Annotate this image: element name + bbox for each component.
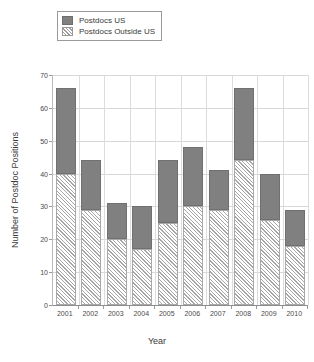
x-tick-label: 2009: [256, 310, 282, 317]
legend-item-postdocs-us: Postdocs US: [62, 15, 155, 26]
y-tick-label: 40: [40, 171, 48, 178]
y-tick-label: 10: [40, 269, 48, 276]
bar-segment-outside-us: [158, 223, 178, 305]
x-tick-label: 2006: [180, 310, 206, 317]
x-tick-label: 2005: [154, 310, 180, 317]
x-tick-mark: [205, 306, 206, 309]
x-tick-label: 2002: [78, 310, 104, 317]
bar-segment-us: [81, 160, 101, 209]
bar-segment-us: [260, 174, 280, 220]
stacked-bar-2007: [209, 75, 229, 305]
x-tick-label: 2004: [129, 310, 155, 317]
bar-segment-us: [183, 147, 203, 206]
bar-segment-outside-us: [234, 160, 254, 305]
bar-segment-us: [56, 88, 76, 173]
x-tick-mark: [78, 306, 79, 309]
bar-segment-outside-us: [81, 210, 101, 305]
x-tick-label: 2001: [52, 310, 78, 317]
stacked-bar-2010: [285, 75, 305, 305]
bar-segment-outside-us: [285, 246, 305, 305]
x-tick-mark: [154, 306, 155, 309]
x-tick-mark: [180, 306, 181, 309]
x-tick-mark: [231, 306, 232, 309]
bar-segment-us: [285, 210, 305, 246]
legend-label-postdocs-us: Postdocs US: [79, 16, 125, 26]
y-tick-label: 20: [40, 236, 48, 243]
x-tick-mark: [129, 306, 130, 309]
stacked-bar-2006: [183, 75, 203, 305]
hatched-swatch-icon: [62, 27, 73, 36]
vertical-gridline: [79, 75, 80, 305]
vertical-gridline: [232, 75, 233, 305]
vertical-gridline: [104, 75, 105, 305]
vertical-gridline: [257, 75, 258, 305]
stacked-bar-2002: [81, 75, 101, 305]
legend-label-postdocs-outside-us: Postdocs Outside US: [79, 27, 155, 37]
stacked-bar-2003: [107, 75, 127, 305]
x-tick-label: 2008: [231, 310, 257, 317]
x-tick-mark: [256, 306, 257, 309]
y-tick-label: 30: [40, 203, 48, 210]
y-tick-label: 70: [40, 72, 48, 79]
stacked-bar-2008: [234, 75, 254, 305]
chart-legend: Postdocs US Postdocs Outside US: [57, 11, 162, 41]
bar-segment-us: [209, 170, 229, 209]
y-axis-title: Number of Postdoc Positions: [10, 75, 20, 305]
x-tick-label: 2007: [205, 310, 231, 317]
bar-segment-us: [234, 88, 254, 160]
x-tick-mark: [307, 306, 308, 309]
stacked-bar-2009: [260, 75, 280, 305]
y-tick-label: 60: [40, 105, 48, 112]
stacked-bar-2005: [158, 75, 178, 305]
vertical-gridline: [308, 75, 309, 305]
bar-segment-us: [107, 203, 127, 239]
vertical-gridline: [206, 75, 207, 305]
vertical-gridline: [155, 75, 156, 305]
bar-segment-outside-us: [209, 210, 229, 305]
y-axis-title-container: Number of Postdoc Positions: [10, 75, 22, 305]
y-tick-label: 50: [40, 138, 48, 145]
x-tick-label: 2010: [282, 310, 308, 317]
legend-item-postdocs-outside-us: Postdocs Outside US: [62, 26, 155, 37]
bar-segment-outside-us: [107, 239, 127, 305]
x-tick-label: 2003: [103, 310, 129, 317]
bar-segment-outside-us: [132, 249, 152, 305]
vertical-gridline: [130, 75, 131, 305]
bar-segment-outside-us: [183, 206, 203, 305]
stacked-bar-2001: [56, 75, 76, 305]
plot-area: [52, 75, 308, 306]
vertical-gridline: [283, 75, 284, 305]
bar-segment-outside-us: [260, 220, 280, 305]
solid-gray-swatch-icon: [62, 16, 73, 25]
bar-segment-us: [158, 160, 178, 222]
x-axis-title: Year: [0, 336, 314, 346]
vertical-gridline: [181, 75, 182, 305]
x-tick-mark: [103, 306, 104, 309]
bar-segment-us: [132, 206, 152, 249]
bar-segment-outside-us: [56, 174, 76, 305]
stacked-bar-2004: [132, 75, 152, 305]
x-tick-mark: [282, 306, 283, 309]
y-tick-label: 0: [44, 302, 48, 309]
